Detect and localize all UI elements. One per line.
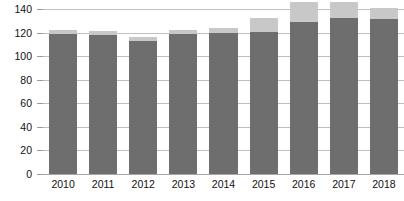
x-tick-label-2017: 2017 [324, 178, 364, 190]
bar-2013[interactable] [169, 29, 197, 174]
x-tick-label-2012: 2012 [123, 178, 163, 190]
bar-2010[interactable] [49, 29, 77, 174]
bar-segment-lower [330, 18, 358, 174]
bar-segment-upper [129, 37, 157, 42]
bar-segment-upper [250, 18, 278, 32]
bar-segment-upper [330, 2, 358, 17]
bar-segment-lower [89, 35, 117, 174]
bar-segment-upper [290, 2, 318, 22]
bar-chart: 020406080100120140 201020112012201320142… [0, 0, 404, 201]
bar-2014[interactable] [209, 28, 237, 174]
bar-2016[interactable] [290, 2, 318, 174]
y-tick-label: 40 [0, 122, 32, 132]
bar-segment-upper [89, 31, 117, 36]
x-tick-label-2016: 2016 [284, 178, 324, 190]
y-tick-label: 80 [0, 75, 32, 85]
y-tick-label: 20 [0, 145, 32, 155]
bar-segment-lower [209, 33, 237, 174]
x-tick-label-2013: 2013 [163, 178, 203, 190]
bar-segment-lower [129, 41, 157, 174]
bar-2015[interactable] [250, 18, 278, 174]
x-tick-label-2010: 2010 [43, 178, 83, 190]
bar-segment-lower [370, 19, 398, 174]
y-tick-label: 60 [0, 98, 32, 108]
bar-2012[interactable] [129, 37, 157, 174]
bar-2018[interactable] [370, 8, 398, 174]
y-tick-label: 120 [0, 28, 32, 38]
x-tick-label-2011: 2011 [83, 178, 123, 190]
x-tick-label-2014: 2014 [203, 178, 243, 190]
bar-segment-lower [169, 34, 197, 174]
bar-segment-upper [209, 28, 237, 33]
y-tick-label: 0 [0, 169, 32, 179]
bar-segment-lower [49, 34, 77, 174]
x-tick-label-2015: 2015 [244, 178, 284, 190]
bar-segment-lower [290, 22, 318, 174]
bar-2011[interactable] [89, 31, 117, 174]
bar-2017[interactable] [330, 2, 358, 174]
bar-segment-upper [370, 8, 398, 19]
x-axis: 201020112012201320142015201620172018 [43, 176, 404, 198]
bar-segment-upper [49, 30, 77, 35]
bar-segment-lower [250, 32, 278, 174]
plot-area [43, 0, 404, 174]
bar-series [43, 0, 404, 174]
y-tick-label: 100 [0, 51, 32, 61]
y-tick-label: 140 [0, 4, 32, 14]
x-tick-label-2018: 2018 [364, 178, 404, 190]
bar-segment-upper [169, 30, 197, 35]
